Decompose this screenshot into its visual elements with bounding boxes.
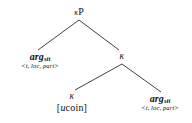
node-left-arg-sit: argsit <t, loc, part>: [21, 52, 59, 70]
node-root-kP: κP: [74, 7, 83, 18]
left-arg-head: arg: [30, 51, 44, 62]
node-mid-kappa: κ: [120, 52, 125, 62]
left-arg-label: argsit: [21, 52, 59, 63]
lexical-stem: coin: [66, 102, 84, 113]
right-arg-label: argsit: [141, 94, 179, 105]
node-lower-kappa: κ [ucoin]: [57, 92, 87, 113]
branch-root-to-left-arg: [38, 20, 79, 50]
node-root-p-symbol: P: [78, 6, 84, 17]
branch-root-to-mid-kappa: [79, 20, 119, 50]
left-arg-subscript: sit: [44, 55, 50, 62]
branch-mid-kappa-to-right-arg: [122, 64, 161, 92]
syntactic-tree-diagram: κP argsit <t, loc, part> κ κ [ucoin] arg…: [0, 0, 192, 123]
lexical-item-ucoin: [ucoin]: [57, 103, 87, 114]
node-right-arg-sit: argsit <t, loc, part>: [141, 94, 179, 112]
branch-mid-kappa-to-lower-kappa: [75, 64, 122, 90]
right-arg-head: arg: [150, 93, 164, 104]
left-arg-features: <t, loc, part>: [21, 63, 59, 70]
lexical-bracket-close: ]: [84, 102, 88, 113]
right-arg-subscript: sit: [164, 97, 170, 104]
lower-kappa-label: κ: [57, 92, 87, 102]
right-arg-features: <t, loc, part>: [141, 105, 179, 112]
